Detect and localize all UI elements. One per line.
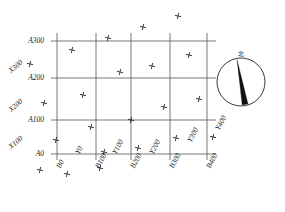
survey-point-marker: [79, 91, 86, 98]
axis-label-left-primary: A100: [0, 116, 47, 124]
axis-label-left-primary: A200: [0, 74, 47, 82]
survey-point-marker: [36, 166, 43, 173]
north-character-label: 北: [238, 51, 244, 57]
survey-point-markers: [26, 12, 216, 177]
survey-point-marker: [104, 34, 111, 41]
compass-needle: [237, 60, 248, 106]
survey-point-marker: [87, 123, 94, 130]
survey-point-marker: [174, 12, 181, 19]
survey-point-marker: [139, 23, 146, 30]
survey-point-marker: [185, 51, 192, 58]
axis-label-left-primary: A0: [0, 150, 47, 158]
survey-point-marker: [68, 46, 75, 53]
north-arrow-compass: [217, 58, 265, 106]
survey-point-marker: [148, 62, 155, 69]
axis-label-left-primary: A300: [0, 37, 47, 45]
survey-point-marker: [63, 170, 70, 177]
survey-point-marker: [195, 95, 202, 102]
survey-point-marker: [172, 134, 179, 141]
survey-point-marker: [116, 68, 123, 75]
survey-point-marker: [26, 60, 33, 67]
excavation-grid-figure: A300A200A100A0X300X200X100B0B100B200B300…: [0, 0, 285, 212]
grid-plot-svg: [0, 0, 285, 212]
survey-point-marker: [209, 133, 216, 140]
survey-point-marker: [40, 99, 47, 106]
survey-point-marker: [160, 103, 167, 110]
survey-point-marker: [52, 136, 59, 143]
